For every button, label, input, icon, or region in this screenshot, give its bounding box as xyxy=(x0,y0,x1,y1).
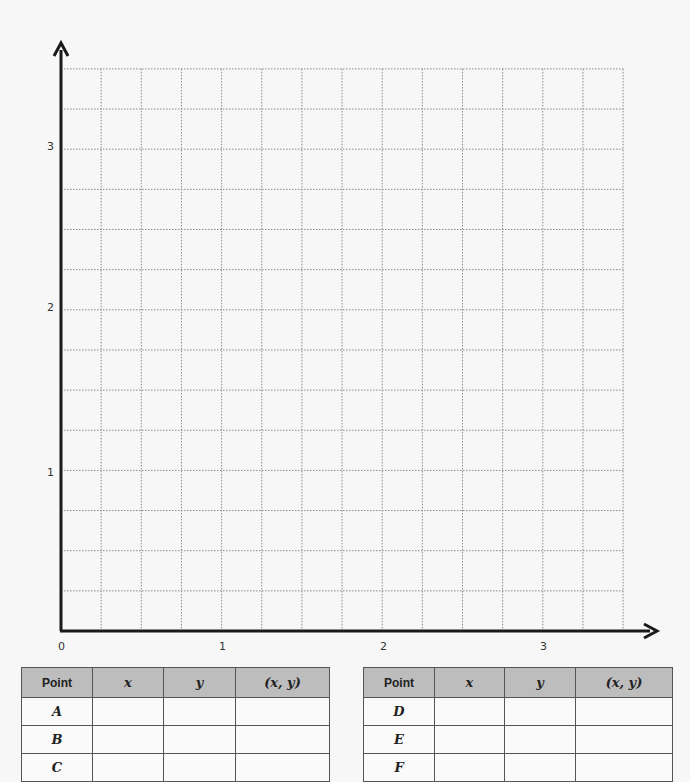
points-table-left: Point x y (x, y) A B C xyxy=(21,667,330,782)
points-table-right: Point x y (x, y) D E F xyxy=(363,667,673,782)
xy-cell[interactable] xyxy=(576,726,673,754)
point-label: A xyxy=(22,698,93,726)
xy-cell[interactable] xyxy=(236,754,330,782)
point-label: F xyxy=(364,754,435,782)
point-label: D xyxy=(364,698,435,726)
table-row: F xyxy=(364,754,673,782)
xy-cell[interactable] xyxy=(576,698,673,726)
point-label: E xyxy=(364,726,435,754)
x-tick-label-1: 1 xyxy=(219,640,226,653)
x-cell[interactable] xyxy=(435,726,505,754)
header-y: y xyxy=(164,668,236,698)
y-cell[interactable] xyxy=(505,698,576,726)
y-cell[interactable] xyxy=(164,726,236,754)
table-header-row: Point x y (x, y) xyxy=(22,668,330,698)
table-header-row: Point x y (x, y) xyxy=(364,668,673,698)
y-cell[interactable] xyxy=(505,754,576,782)
x-tick-label-3: 3 xyxy=(540,640,547,653)
table-row: E xyxy=(364,726,673,754)
origin-label: 0 xyxy=(58,640,65,653)
y-tick-label-2: 2 xyxy=(47,301,54,314)
header-xy: (x, y) xyxy=(576,668,673,698)
xy-cell[interactable] xyxy=(576,754,673,782)
table-row: A xyxy=(22,698,330,726)
header-x: x xyxy=(93,668,164,698)
table-row: B xyxy=(22,726,330,754)
y-cell[interactable] xyxy=(164,698,236,726)
y-cell[interactable] xyxy=(164,754,236,782)
point-label: C xyxy=(22,754,93,782)
x-cell[interactable] xyxy=(93,698,164,726)
coordinate-plane xyxy=(0,0,690,650)
x-cell[interactable] xyxy=(93,754,164,782)
table-row: C xyxy=(22,754,330,782)
header-point: Point xyxy=(364,668,435,698)
header-x: x xyxy=(435,668,505,698)
y-cell[interactable] xyxy=(505,726,576,754)
header-y: y xyxy=(505,668,576,698)
x-cell[interactable] xyxy=(435,754,505,782)
y-tick-label-3: 3 xyxy=(47,140,54,153)
point-label: B xyxy=(22,726,93,754)
header-point: Point xyxy=(22,668,93,698)
header-xy: (x, y) xyxy=(236,668,330,698)
xy-cell[interactable] xyxy=(236,698,330,726)
x-tick-label-2: 2 xyxy=(380,640,387,653)
table-row: D xyxy=(364,698,673,726)
x-cell[interactable] xyxy=(93,726,164,754)
y-tick-label-1: 1 xyxy=(47,466,54,479)
x-cell[interactable] xyxy=(435,698,505,726)
grid-lines xyxy=(61,69,623,631)
xy-cell[interactable] xyxy=(236,726,330,754)
